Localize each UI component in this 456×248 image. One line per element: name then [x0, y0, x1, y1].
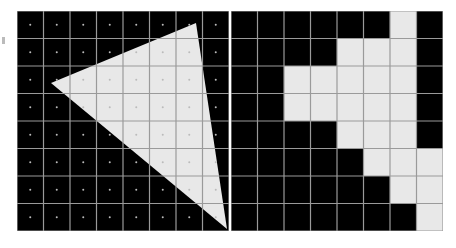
filled-pixel — [390, 11, 417, 39]
sample-dot — [135, 189, 137, 191]
filled-pixel — [364, 121, 391, 149]
filled-pixel — [284, 66, 311, 94]
sample-dot — [135, 216, 137, 218]
sample-dot — [162, 161, 164, 163]
sample-dot — [82, 106, 84, 108]
filled-pixel — [364, 94, 391, 122]
filled-pixel — [311, 66, 338, 94]
sample-dot — [162, 134, 164, 136]
sample-dot — [188, 106, 190, 108]
sample-dot — [215, 189, 217, 191]
sample-dot — [215, 134, 217, 136]
sample-dot — [109, 51, 111, 53]
sample-dot — [56, 189, 58, 191]
sample-dot — [109, 24, 111, 26]
sample-dot — [162, 216, 164, 218]
filled-pixel — [337, 39, 364, 67]
filled-pixel — [417, 204, 444, 232]
sample-dot — [29, 106, 31, 108]
sample-dot — [56, 134, 58, 136]
sample-dot — [109, 161, 111, 163]
sample-dot — [82, 161, 84, 163]
filled-pixel — [390, 66, 417, 94]
sample-dot — [82, 51, 84, 53]
sample-dot — [188, 134, 190, 136]
sample-dot — [109, 216, 111, 218]
sample-dot — [188, 189, 190, 191]
sample-dot — [29, 79, 31, 81]
sample-dot — [109, 134, 111, 136]
sample-dot — [135, 24, 137, 26]
filled-pixel — [311, 94, 338, 122]
sample-dot — [56, 216, 58, 218]
filled-pixel — [390, 39, 417, 67]
filled-pixel — [390, 121, 417, 149]
continuous-triangle-panel — [17, 11, 229, 231]
sample-dot — [162, 106, 164, 108]
sample-dot — [135, 134, 137, 136]
sample-dot — [135, 51, 137, 53]
sample-dot — [162, 24, 164, 26]
filled-pixel — [337, 121, 364, 149]
sample-dot — [56, 79, 58, 81]
filled-pixel — [364, 39, 391, 67]
filled-pixel — [390, 176, 417, 204]
sample-dot — [215, 161, 217, 163]
sample-dot — [82, 216, 84, 218]
sample-dot — [82, 134, 84, 136]
sample-dot — [56, 51, 58, 53]
sample-dot — [56, 161, 58, 163]
sample-dot — [82, 79, 84, 81]
raster-grid-svg — [231, 11, 443, 231]
sample-dot — [215, 51, 217, 53]
sample-dot — [135, 161, 137, 163]
sample-dot — [188, 161, 190, 163]
sample-dot — [162, 79, 164, 81]
filled-pixel — [417, 176, 444, 204]
filled-pixel — [417, 149, 444, 177]
sample-dot — [215, 79, 217, 81]
sample-dot — [135, 106, 137, 108]
sample-dot — [82, 24, 84, 26]
sample-dot — [29, 51, 31, 53]
filled-pixel — [364, 149, 391, 177]
margin-mark — [2, 37, 5, 44]
filled-pixel — [337, 94, 364, 122]
sample-dot — [215, 106, 217, 108]
sample-dot — [109, 106, 111, 108]
sample-dot — [29, 134, 31, 136]
triangle-grid-svg — [17, 11, 229, 231]
triangle-shape — [51, 23, 227, 229]
sample-dot — [188, 216, 190, 218]
sample-dot — [29, 24, 31, 26]
rasterized-triangle-panel — [231, 11, 443, 231]
sample-dot — [215, 24, 217, 26]
sample-dot — [82, 189, 84, 191]
sample-dot — [109, 189, 111, 191]
sample-dot — [162, 51, 164, 53]
sample-dot — [56, 24, 58, 26]
filled-pixel — [364, 66, 391, 94]
sample-dot — [188, 24, 190, 26]
sample-dot — [162, 189, 164, 191]
filled-pixel — [390, 149, 417, 177]
filled-pixel — [284, 94, 311, 122]
sample-dot — [29, 216, 31, 218]
sample-dot — [56, 106, 58, 108]
sample-dot — [29, 161, 31, 163]
filled-pixel — [390, 94, 417, 122]
sample-dot — [215, 216, 217, 218]
filled-pixel — [337, 66, 364, 94]
sample-dot — [188, 51, 190, 53]
sample-dot — [109, 79, 111, 81]
sample-dot — [188, 79, 190, 81]
sample-dot — [29, 189, 31, 191]
sample-dot — [135, 79, 137, 81]
